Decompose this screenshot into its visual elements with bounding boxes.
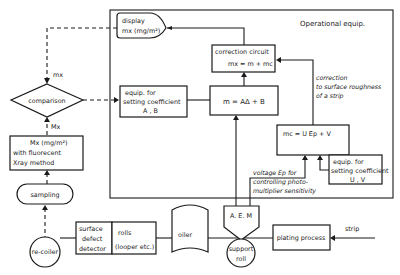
equation-mc-node: mc = U Ep + V [277,125,349,155]
coefficient-ab-node: equip. for setting coefficient A , B [120,86,187,117]
process-flow-diagram: Operational equip. display mx (mg/m²) mx… [0,0,400,275]
svg-text:mx = m + mc: mx = m + mc [228,60,273,68]
svg-text:surface: surface [79,225,103,233]
display-value: mx (mg/m²) [122,27,160,35]
display-node: display mx (mg/m²) [117,13,166,38]
support-roll-node: support roll [227,239,255,267]
svg-text:rolls: rolls [118,229,132,237]
Mx-label: Mx [51,123,61,131]
fluorescent-xray-node: Mx (mg/m²) with fluorecent Xray method [10,136,83,170]
coefficient-uv-node: equip. for setting coefficient U , V [329,155,389,184]
svg-text:Mx (mg/m²): Mx (mg/m²) [30,139,68,147]
svg-text:plating process: plating process [277,234,326,242]
comparison-node: comparison [11,84,83,117]
svg-text:support: support [229,245,254,253]
svg-text:defect: defect [82,235,103,243]
svg-text:U , V: U , V [350,176,366,184]
sampling-node: sampling [17,184,73,204]
aem-node: A. E. M [224,206,259,240]
comparison-label: comparison [28,97,65,105]
svg-text:detector: detector [79,245,106,253]
correction-circuit-node: correction circuit mx = m + mc [212,45,275,72]
svg-text:correction: correction [316,74,347,81]
svg-text:(looper etc.): (looper etc.) [115,243,154,251]
surface-defect-detector-node: surface defect detector [76,222,112,254]
strip-label: strip [345,225,359,233]
svg-text:A , B: A , B [143,107,158,115]
svg-text:with fluorecent: with fluorecent [13,149,61,157]
svg-text:m = AΔ + B: m = AΔ + B [223,98,265,106]
svg-text:Xray method: Xray method [13,159,54,167]
svg-text:correction circuit: correction circuit [215,48,269,56]
display-label: display [122,17,145,25]
svg-text:multiplier sensitivity: multiplier sensitivity [253,187,316,195]
svg-text:to surface roughness: to surface roughness [316,83,382,91]
rolls-node: rolls (looper etc.) [112,222,156,254]
plating-process-node: plating process [273,225,330,250]
svg-text:mc = U Ep + V: mc = U Ep + V [283,130,331,138]
svg-text:equip. for: equip. for [125,89,156,97]
svg-text:of a strip: of a strip [316,92,344,100]
mx-label: mx [53,71,63,79]
recoiler-node: re-coiler [30,237,60,267]
svg-text:re-coiler: re-coiler [32,248,59,256]
svg-text:oiler: oiler [178,231,192,239]
svg-text:equip. for: equip. for [333,158,364,166]
oiler-node: oiler [172,205,208,252]
operational-equipment-label: Operational equip. [300,20,365,28]
svg-text:voltage Ep for: voltage Ep for [253,169,297,177]
svg-text:controlling photo-: controlling photo- [253,178,308,186]
svg-text:sampling: sampling [30,191,59,199]
svg-text:setting coefficient: setting coefficient [123,98,181,106]
equation-m-node: m = AΔ + B [210,86,278,115]
svg-text:setting coefficient: setting coefficient [331,167,389,175]
svg-text:A. E. M: A. E. M [230,212,252,220]
svg-text:roll: roll [236,255,246,263]
